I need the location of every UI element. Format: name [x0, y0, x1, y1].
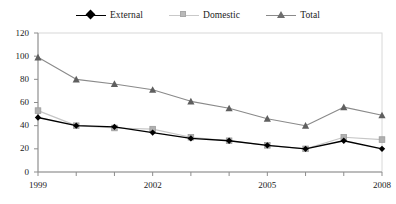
y-axis-tick-label: 0 — [3, 168, 29, 177]
data-point-marker — [379, 137, 385, 143]
plot-svg — [0, 24, 396, 204]
y-axis-tick-label: 60 — [3, 98, 29, 107]
legend-label-domestic: Domestic — [203, 9, 240, 21]
x-axis-tick-label: 1999 — [18, 181, 58, 190]
domestic-legend-swatch — [169, 9, 199, 21]
total-legend-swatch — [266, 9, 296, 21]
y-axis-tick-label: 80 — [3, 75, 29, 84]
square-marker-icon — [180, 11, 186, 17]
data-point-marker — [73, 76, 80, 83]
legend-item-domestic: Domestic — [169, 8, 240, 22]
data-point-marker — [340, 104, 347, 111]
series-line — [38, 118, 382, 149]
x-axis-tick-label: 2005 — [247, 181, 287, 190]
y-axis-tick-label: 100 — [3, 52, 29, 61]
legend-item-external: External — [76, 8, 143, 22]
y-axis-tick-label: 20 — [3, 144, 29, 153]
legend-item-total: Total — [266, 8, 320, 22]
plot-frame — [38, 33, 382, 172]
plot-area: 0204060801001201999200220052008 — [0, 24, 396, 204]
series-total — [34, 54, 385, 129]
data-point-marker — [379, 146, 385, 152]
external-legend-swatch — [76, 9, 106, 21]
data-point-marker — [35, 114, 41, 120]
x-axis-tick-label: 2002 — [133, 181, 173, 190]
y-axis-tick-label: 120 — [3, 29, 29, 38]
data-point-marker — [35, 108, 41, 114]
triangle-marker-icon — [277, 11, 285, 18]
legend-label-external: External — [110, 9, 143, 21]
x-axis-tick-label: 2008 — [362, 181, 396, 190]
data-point-marker — [34, 54, 41, 61]
series-line — [38, 57, 382, 125]
diamond-marker-icon — [86, 10, 96, 20]
line-chart: External Domestic Total 0204060801001201… — [0, 0, 396, 204]
chart-legend: External Domestic Total — [0, 6, 396, 24]
legend-label-total: Total — [300, 9, 320, 21]
y-axis-tick-label: 40 — [3, 121, 29, 130]
series-external — [35, 114, 385, 152]
series-domestic — [35, 108, 385, 152]
